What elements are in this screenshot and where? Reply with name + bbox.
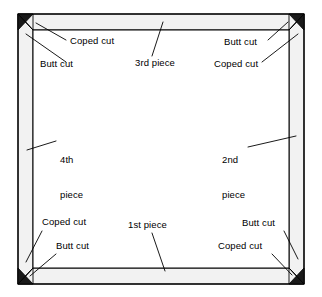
- label-piece-2-line2: piece: [222, 189, 245, 201]
- molding-run-right: [289, 14, 304, 284]
- label-coped-cut-bottom-right: Coped cut: [218, 240, 262, 251]
- diagram-canvas: Coped cut Butt cut Butt cut Coped cut 3r…: [0, 0, 322, 297]
- label-piece-4-line1: 4th: [60, 154, 83, 166]
- label-piece-2: 2nd piece: [222, 131, 245, 223]
- molding-frame-illustration: [0, 0, 322, 297]
- molding-run-bottom: [18, 268, 304, 284]
- label-coped-cut-top-right: Coped cut: [214, 58, 258, 69]
- label-piece-2-line1: 2nd: [222, 154, 245, 166]
- label-coped-cut-bottom-left: Coped cut: [42, 216, 86, 227]
- label-butt-cut-top-right: Butt cut: [224, 36, 257, 47]
- label-butt-cut-bottom-left: Butt cut: [56, 240, 89, 251]
- label-piece-1: 1st piece: [128, 219, 167, 230]
- label-piece-4: 4th piece: [60, 131, 83, 223]
- label-piece-3: 3rd piece: [135, 57, 175, 68]
- label-butt-cut-bottom-right: Butt cut: [242, 217, 275, 228]
- label-piece-4-line2: piece: [60, 189, 83, 201]
- label-coped-cut-top-left: Coped cut: [70, 35, 114, 46]
- label-butt-cut-top-left: Butt cut: [40, 58, 73, 69]
